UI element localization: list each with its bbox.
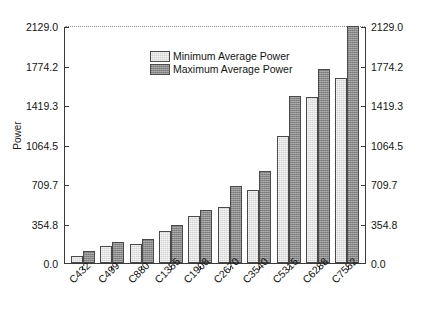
x-tick-cell-c3540: C3540 <box>245 266 275 326</box>
bar-min-c3540 <box>247 190 259 263</box>
bar-max-c6288 <box>318 69 330 263</box>
x-tick-cell-c432: C432 <box>67 266 97 326</box>
y-tick-label-right-1: 1774.2 <box>371 61 417 73</box>
bar-group-c499 <box>97 27 126 263</box>
x-tick-cell-c880: C880 <box>126 266 156 326</box>
bar-max-c5315 <box>289 96 301 263</box>
bar-group-c6288 <box>303 27 332 263</box>
y-tick-label-right-3: 1064.5 <box>371 140 417 152</box>
bar-max-c7552 <box>347 26 359 263</box>
y-tick-label-left-3: 1064.5 <box>12 140 58 152</box>
x-axis-tick-labels: C432C499C880C1355C1908C2670C3540C5315C62… <box>64 266 366 326</box>
y-tick-label-left-1: 1774.2 <box>12 61 58 73</box>
x-tick-cell-c1908: C1908 <box>185 266 215 326</box>
bar-group-c432 <box>68 27 97 263</box>
y-tick-label-left-4: 709.7 <box>12 179 58 191</box>
x-tick-cell-c7552: C7552 <box>333 266 363 326</box>
legend-label-maximum: Maximum Average Power <box>173 63 292 75</box>
y-tick-label-right-6: 0.0 <box>371 258 417 270</box>
y-tick-label-right-5: 354.8 <box>371 219 417 231</box>
y-tick-label-left-6: 0.0 <box>12 258 58 270</box>
bar-group-c7552 <box>333 27 362 263</box>
x-tick-cell-c499: C499 <box>97 266 127 326</box>
legend-label-minimum: Minimum Average Power <box>173 50 290 62</box>
y-axis-title: Power <box>12 106 23 166</box>
bar-min-c5315 <box>277 136 289 263</box>
legend-item-maximum: Maximum Average Power <box>150 63 292 75</box>
y-tick-label-right-4: 709.7 <box>371 179 417 191</box>
bar-min-c880 <box>130 244 142 263</box>
bar-max-c2670 <box>230 186 242 263</box>
y-tick-label-left-0: 2129.0 <box>12 21 58 33</box>
bar-min-c7552 <box>335 78 347 263</box>
bar-max-c3540 <box>259 171 271 263</box>
chart-legend: Minimum Average Power Maximum Average Po… <box>150 50 292 75</box>
x-tick-cell-c5315: C5315 <box>274 266 304 326</box>
bar-min-c6288 <box>306 97 318 263</box>
legend-swatch-minimum-icon <box>150 51 170 62</box>
power-bar-chart: Power 2129.01774.21419.31064.5709.7354.8… <box>0 0 429 331</box>
y-tick-label-right-2: 1419.3 <box>371 100 417 112</box>
bar-min-c1908 <box>188 216 200 263</box>
bar-min-c2670 <box>218 207 230 263</box>
legend-item-minimum: Minimum Average Power <box>150 50 292 62</box>
legend-swatch-maximum-icon <box>150 64 170 75</box>
y-tick-label-right-0: 2129.0 <box>371 21 417 33</box>
y-tick-label-left-2: 1419.3 <box>12 100 58 112</box>
y-tick-label-left-5: 354.8 <box>12 219 58 231</box>
